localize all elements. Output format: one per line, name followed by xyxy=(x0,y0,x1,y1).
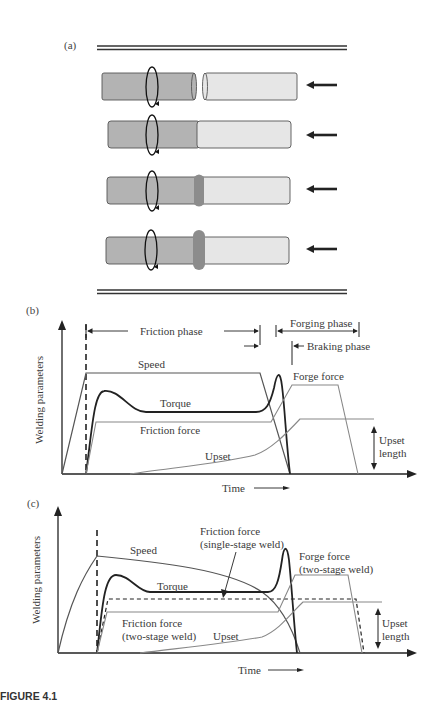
y-axis-arrow-icon xyxy=(54,506,62,516)
panel-c-label: (c) xyxy=(27,497,40,510)
stationary-rod xyxy=(205,73,297,100)
figure-caption: FIGURE 4.1 xyxy=(0,690,57,702)
panel-a-label: (a) xyxy=(64,39,77,52)
y-axis-label: Welding parameters xyxy=(33,356,45,444)
forging-phase-dimension: Forging phase xyxy=(278,317,357,331)
forge-force-label: Forge force xyxy=(293,370,344,382)
panel-a: (a) xyxy=(64,39,347,294)
braking-phase-label: Braking phase xyxy=(307,340,370,352)
torque-label: Torque xyxy=(157,580,188,592)
x-axis-arrow-icon xyxy=(407,649,417,657)
friction-force-label: Friction force xyxy=(140,424,200,436)
upset-length-indicator: Upset length xyxy=(371,426,407,470)
x-axis-arrow-icon xyxy=(407,470,417,478)
panel-c: (c) Welding parameters Time Speed Torque… xyxy=(27,497,417,676)
bottom-double-rule xyxy=(97,290,347,294)
time-arrow-icon xyxy=(254,486,290,490)
rotating-rod xyxy=(102,73,195,100)
y-axis-label: Welding parameters xyxy=(30,536,42,624)
forge-force-two-label-1: Forge force xyxy=(299,550,350,562)
push-arrow-icon xyxy=(306,81,337,89)
friction-phase-dimension: Friction phase xyxy=(88,325,258,337)
upset-label: Upset xyxy=(205,450,231,462)
upset-length-label-1: Upset xyxy=(382,617,408,629)
rotating-rod xyxy=(108,121,200,148)
friction-phase-label: Friction phase xyxy=(140,325,203,337)
friction-force-single-label-2: (single-stage weld) xyxy=(200,538,284,551)
friction-force-two-label-2: (two-stage weld) xyxy=(122,630,197,643)
panel-b: (b) Welding parameters Time Friction pha… xyxy=(26,304,417,494)
top-double-rule xyxy=(97,46,347,50)
upset-length-label-1: Upset xyxy=(379,434,405,446)
upset-label: Upset xyxy=(213,630,239,642)
stage-1 xyxy=(102,67,337,107)
forge-force-two-label-2: (two-stage weld) xyxy=(299,563,374,576)
stage-3 xyxy=(107,171,337,211)
speed-label: Speed xyxy=(138,358,165,370)
speed-label: Speed xyxy=(130,544,157,556)
x-axis-label: Time xyxy=(222,482,245,494)
push-arrow-icon xyxy=(306,131,337,139)
panel-b-label: (b) xyxy=(26,304,39,317)
figure-canvas: (a) xyxy=(0,0,438,703)
upset-length-label-2: length xyxy=(379,447,407,459)
stage-4 xyxy=(106,230,337,270)
stage-2 xyxy=(108,115,337,155)
upset-length-label-2: length xyxy=(382,630,410,642)
stationary-rod xyxy=(199,177,290,204)
friction-force-two-label-1: Friction force xyxy=(122,617,182,629)
friction-force-single-label-1: Friction force xyxy=(200,525,260,537)
flash-bead xyxy=(194,175,204,207)
stationary-rod xyxy=(199,237,289,264)
push-arrow-icon xyxy=(306,185,337,193)
stationary-rod xyxy=(197,121,291,148)
torque-label: Torque xyxy=(160,397,191,409)
rotating-rod xyxy=(107,177,201,204)
rotating-rod xyxy=(106,237,202,264)
flash-bead xyxy=(193,230,205,270)
x-axis-label: Time xyxy=(238,664,261,676)
braking-phase-dimension: Braking phase xyxy=(244,340,370,352)
push-arrow-icon xyxy=(306,245,337,253)
y-axis-arrow-icon xyxy=(58,320,66,330)
upset-length-indicator: Upset length xyxy=(375,608,410,649)
time-arrow-icon xyxy=(268,668,304,672)
forging-phase-label: Forging phase xyxy=(290,317,353,329)
